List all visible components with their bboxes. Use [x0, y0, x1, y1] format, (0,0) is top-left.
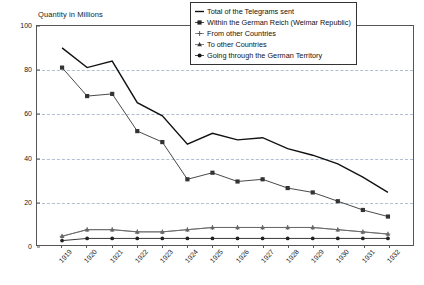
data-point [361, 208, 365, 212]
x-tick-label-1927: 1927 [259, 248, 275, 264]
legend-entry-label: Going through the German Territory [207, 51, 322, 60]
x-tick-label-1926: 1926 [234, 248, 250, 264]
x-tick-mark [313, 245, 314, 248]
data-point [236, 237, 240, 241]
x-tick-label-1921: 1921 [108, 248, 124, 264]
y-tick-label-60: 60 [10, 110, 36, 117]
plus-marker-icon [194, 28, 207, 39]
data-point [336, 199, 340, 203]
square-marker-icon [194, 17, 207, 28]
x-tick-mark [61, 245, 62, 248]
y-tick-label-20: 20 [10, 198, 36, 205]
legend-entry-label: Within the German Reich (Weimar Republic… [207, 18, 351, 27]
x-tick-mark [112, 245, 113, 248]
data-point [210, 171, 214, 175]
data-point [311, 237, 315, 241]
data-point [261, 177, 265, 181]
series-line [62, 48, 388, 193]
x-tick-mark [263, 245, 264, 248]
y-tick-label-100: 100 [10, 22, 36, 29]
x-tick-label-1928: 1928 [285, 248, 301, 264]
x-tick-label-1919: 1919 [58, 248, 74, 264]
series-line [62, 227, 388, 236]
diamond-marker-icon [194, 50, 207, 61]
series-3 [60, 225, 390, 238]
x-tick-label-1930: 1930 [335, 248, 351, 264]
x-tick-label-1920: 1920 [83, 248, 99, 264]
data-point [60, 239, 64, 243]
data-point [110, 92, 114, 96]
x-tick-mark [364, 245, 365, 248]
data-point [336, 237, 340, 241]
x-tick-mark [338, 245, 339, 248]
legend-entry-2: From other Countries [194, 28, 351, 39]
data-point [60, 66, 64, 70]
x-tick-mark [187, 245, 188, 248]
data-point [386, 237, 390, 241]
data-point [286, 186, 290, 190]
data-point [160, 140, 164, 144]
x-tick-label-1924: 1924 [184, 248, 200, 264]
data-point [286, 237, 290, 241]
data-point [85, 94, 89, 98]
legend-entry-3: To other Countries [194, 39, 351, 50]
data-point [85, 237, 89, 241]
x-tick-label-1923: 1923 [159, 248, 175, 264]
series-1 [60, 66, 390, 219]
series-line [62, 68, 388, 217]
y-axis-title: Quantity in Millions [38, 10, 103, 19]
chart-legend: Total of the Telegrams sentWithin the Ge… [190, 2, 357, 65]
x-tick-label-1932: 1932 [385, 248, 401, 264]
x-tick-mark [212, 245, 213, 248]
data-point [135, 237, 139, 241]
data-point [386, 214, 390, 218]
x-tick-label-1929: 1929 [310, 248, 326, 264]
series-0 [62, 48, 388, 193]
data-point [160, 237, 164, 241]
data-point [135, 129, 139, 133]
legend-entry-4: Going through the German Territory [194, 50, 351, 61]
x-tick-mark [238, 245, 239, 248]
legend-entry-0: Total of the Telegrams sent [194, 6, 351, 17]
x-axis: 1919192019211922192319241925192619271928… [36, 248, 414, 285]
x-tick-mark [162, 245, 163, 248]
x-tick-label-1922: 1922 [133, 248, 149, 264]
data-point [186, 237, 190, 241]
y-tick-label-40: 40 [10, 154, 36, 161]
data-point [110, 237, 114, 241]
legend-entry-label: Total of the Telegrams sent [207, 7, 294, 16]
x-tick-label-1925: 1925 [209, 248, 225, 264]
y-tick-label-0: 0 [10, 243, 36, 250]
series-4 [60, 237, 390, 243]
x-tick-mark [288, 245, 289, 248]
data-point [235, 179, 239, 183]
data-point [211, 237, 215, 241]
data-point [261, 237, 265, 241]
x-tick-mark [389, 245, 390, 248]
legend-entry-label: To other Countries [207, 40, 267, 49]
triangle-marker-icon [194, 39, 207, 50]
legend-entry-1: Within the German Reich (Weimar Republic… [194, 17, 351, 28]
x-tick-mark [137, 245, 138, 248]
legend-entry-label: From other Countries [207, 29, 276, 38]
y-tick-label-80: 80 [10, 66, 36, 73]
x-tick-mark [86, 245, 87, 248]
dash-line-icon [194, 6, 207, 17]
data-point [311, 190, 315, 194]
data-point [185, 177, 189, 181]
chart-root: Quantity in Millions 020406080100 191919… [0, 0, 424, 285]
series-line [62, 227, 388, 236]
x-tick-label-1931: 1931 [360, 248, 376, 264]
data-point [361, 237, 365, 241]
